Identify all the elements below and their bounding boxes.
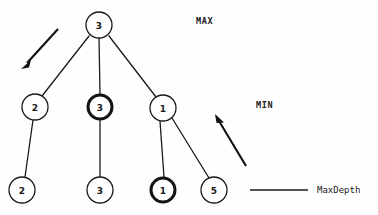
node-root-label: 3 (96, 21, 102, 31)
node-group: 3 2 3 1 2 3 (9, 12, 227, 203)
node-leaf-3[interactable]: 3 (87, 177, 113, 203)
node-min-middle[interactable]: 3 (88, 95, 112, 119)
min-level-label: MIN (256, 100, 273, 110)
node-leaf-1-label: 1 (160, 186, 166, 196)
node-leaf-2-label: 2 (19, 186, 25, 196)
minimax-tree-diagram: 3 2 3 1 2 3 (0, 0, 378, 215)
max-direction-arrow-icon (21, 29, 58, 69)
node-leaf-3-label: 3 (97, 186, 103, 196)
node-min-left[interactable]: 2 (22, 94, 48, 120)
min-direction-arrow-icon (215, 114, 246, 166)
node-min-right[interactable]: 1 (150, 95, 176, 121)
diagram-canvas: 3 2 3 1 2 3 (0, 0, 378, 215)
edge-root-to-middle (99, 38, 100, 94)
node-leaf-5[interactable]: 5 (201, 177, 227, 203)
edge-root-to-right (109, 36, 156, 97)
node-min-right-label: 1 (160, 104, 166, 114)
node-leaf-5-label: 5 (211, 186, 217, 196)
edge-right-to-leaf1 (160, 121, 164, 177)
node-leaf-1[interactable]: 1 (151, 178, 175, 202)
min-arrow-shaft (219, 121, 246, 166)
node-min-middle-label: 3 (97, 103, 103, 113)
maxdepth-label: MaxDepth (317, 185, 360, 195)
edge-right-to-leaf5 (172, 118, 209, 178)
node-min-left-label: 2 (32, 103, 38, 113)
min-arrow-head (215, 114, 224, 123)
arrow-group (21, 29, 246, 166)
edge-root-to-left (42, 36, 89, 96)
node-root[interactable]: 3 (86, 12, 112, 38)
max-arrow-shaft (27, 29, 58, 63)
node-leaf-2[interactable]: 2 (9, 177, 35, 203)
edge-group (25, 36, 209, 178)
edge-left-to-leaf2 (25, 120, 33, 177)
max-level-label: MAX (196, 16, 213, 26)
